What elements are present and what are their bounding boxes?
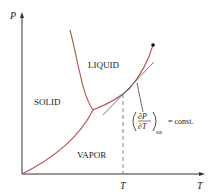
fusion-curve (70, 30, 93, 110)
equals-const: = const. (168, 117, 193, 126)
liquid-region-label: LIQUID (88, 60, 119, 70)
vapor-region-label: VAPOR (77, 150, 106, 160)
temperature-axis-arrow-icon (199, 172, 205, 176)
y-axis-label: P (9, 10, 16, 21)
saturation-slope-formula: ∂P ∂T sat = const. (133, 112, 193, 135)
sat-subscript: sat (156, 129, 163, 135)
partial-numerator: ∂P (138, 112, 147, 121)
phase-diagram: P T T LIQUID SOLID VAPOR ∂P ∂T sat = con… (0, 0, 216, 195)
x-axis-label: T (197, 180, 204, 191)
partial-denominator: ∂T (138, 122, 147, 131)
left-paren (133, 112, 136, 131)
solid-region-label: SOLID (34, 97, 61, 107)
annotation-leader-line (137, 83, 143, 112)
sublimation-curve (22, 110, 93, 174)
x-tick-label: T (120, 180, 127, 191)
vaporization-curve (93, 45, 153, 110)
critical-point (151, 43, 155, 47)
pressure-axis-arrow-icon (20, 12, 24, 18)
